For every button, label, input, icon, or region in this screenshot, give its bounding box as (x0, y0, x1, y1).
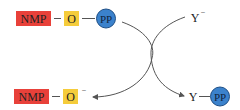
nmp-label-top: NMP (20, 12, 46, 26)
y-charge-top: − (201, 8, 206, 17)
nmp-label-bottom: NMP (18, 90, 44, 104)
curve-nucleophile-to-right-product (151, 17, 185, 96)
reactant-nmp-o-pp: NMP O PP (16, 9, 116, 28)
o-label-bottom: O (66, 90, 75, 104)
y-label-top: Y (191, 11, 200, 25)
nucleophile-y: Y − (191, 8, 206, 25)
pp-label-bottom: PP (214, 91, 226, 103)
reaction-diagram: NMP O PP Y − NMP O − Y PP (0, 0, 240, 110)
pp-label-top: PP (100, 13, 112, 25)
y-label-bottom: Y (189, 90, 198, 104)
o-charge-bottom: − (82, 86, 87, 95)
product-nmp-o: NMP O − (14, 86, 87, 104)
curve-reactant-to-left-product (93, 22, 153, 97)
o-label-top: O (67, 12, 76, 26)
product-y-pp: Y PP (189, 87, 230, 106)
